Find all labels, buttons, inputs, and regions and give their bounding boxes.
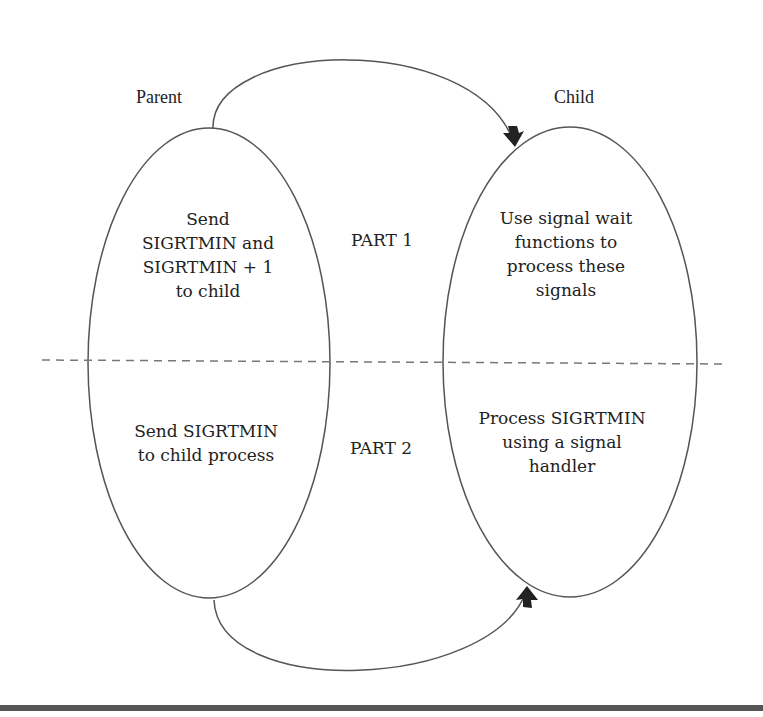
parent-part2-text: Send SIGRTMIN to child process — [134, 419, 278, 467]
top-arrowhead-icon — [503, 126, 524, 147]
child-part1-text: Use signal wait functions to process the… — [500, 206, 632, 302]
part-divider-dashed-line — [42, 360, 726, 364]
parent-part1-text: Send SIGRTMIN and SIGRTMIN + 1 to child — [142, 207, 274, 303]
part2-label: PART 2 — [350, 436, 412, 460]
parent-ellipse — [88, 128, 330, 598]
parent-label: Parent — [136, 85, 182, 109]
diagram-canvas — [0, 0, 763, 717]
bottom-arc-arrow — [214, 592, 526, 670]
child-part2-text: Process SIGRTMIN using a signal handler — [478, 406, 645, 478]
child-label: Child — [554, 85, 594, 109]
top-arc-arrow — [213, 60, 513, 140]
part1-label: PART 1 — [351, 228, 413, 252]
bottom-rule — [0, 705, 763, 711]
